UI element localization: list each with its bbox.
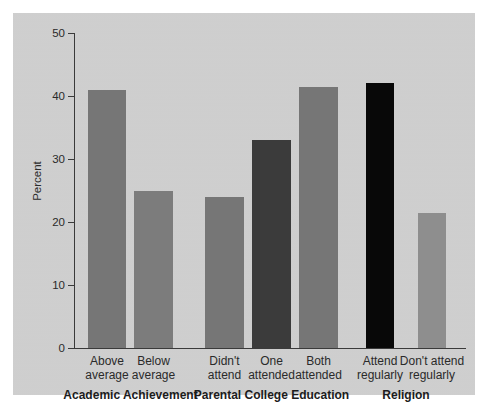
group-title: Religion — [296, 388, 487, 402]
y-tick-mark — [68, 222, 74, 223]
y-tick-mark — [68, 96, 74, 97]
y-tick-label: 0 — [59, 342, 65, 354]
bar — [418, 213, 446, 348]
y-tick-label: 30 — [52, 153, 65, 165]
y-tick-label: 20 — [52, 216, 65, 228]
bar — [366, 83, 394, 348]
y-tick-mark — [68, 348, 74, 349]
y-tick-label: 10 — [52, 279, 65, 291]
bar — [205, 197, 244, 348]
x-tick-label: Don't attend regularly — [389, 355, 475, 382]
y-tick-mark — [68, 159, 74, 160]
chart-figure: Percent 01020304050 Above averageBelow a… — [0, 0, 487, 420]
x-axis-line — [74, 348, 466, 349]
y-tick-label: 50 — [52, 27, 65, 39]
y-tick-mark — [68, 33, 74, 34]
bar — [252, 140, 291, 348]
bar — [299, 87, 338, 348]
bar — [88, 90, 126, 348]
y-tick-mark — [68, 285, 74, 286]
plot-area: 01020304050 — [74, 33, 466, 348]
bar — [134, 191, 173, 349]
y-axis-label: Percent — [31, 161, 43, 201]
y-axis-line — [74, 33, 75, 348]
y-tick-label: 40 — [52, 90, 65, 102]
